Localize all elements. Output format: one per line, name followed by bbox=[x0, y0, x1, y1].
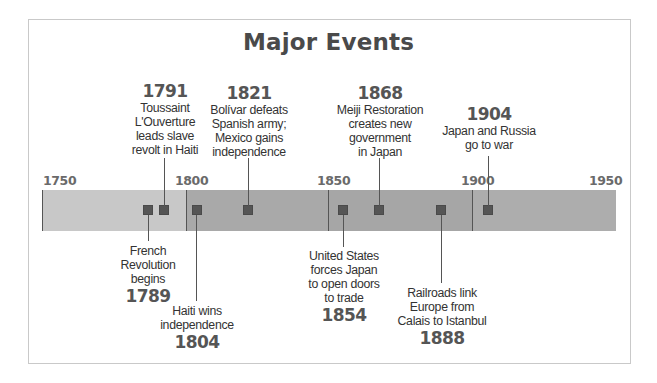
event-year: 1789 bbox=[120, 286, 175, 306]
event-desc-line: Haiti wins bbox=[160, 304, 234, 318]
event-desc-line: go to war bbox=[442, 138, 536, 152]
stem-1789 bbox=[148, 215, 149, 241]
segment-1850-1900 bbox=[328, 190, 472, 231]
event-desc-line: Mexico gains bbox=[210, 131, 288, 145]
event-1791: 1791 Toussaint L'Ouverture leads slave r… bbox=[132, 81, 199, 157]
marker-1821 bbox=[243, 205, 253, 215]
event-1904: 1904 Japan and Russia go to war bbox=[442, 104, 536, 152]
event-desc-line: independence bbox=[210, 145, 288, 159]
marker-1904 bbox=[483, 205, 493, 215]
event-desc-line: to open doors bbox=[308, 277, 379, 291]
event-year: 1904 bbox=[442, 104, 536, 124]
event-desc-line: Meiji Restoration bbox=[337, 103, 423, 117]
event-year: 1804 bbox=[160, 332, 234, 352]
event-desc-line: Bolívar defeats bbox=[210, 103, 288, 117]
stem-1904 bbox=[488, 156, 489, 206]
event-1789: French Revolution begins 1789 bbox=[120, 244, 175, 306]
event-1804: Haiti wins independence 1804 bbox=[160, 304, 234, 352]
event-1821: 1821 Bolívar defeats Spanish army; Mexic… bbox=[210, 83, 288, 159]
event-desc-line: creates new bbox=[337, 117, 423, 131]
event-desc-line: Europe from bbox=[398, 300, 487, 314]
page-title: Major Events bbox=[0, 29, 657, 55]
divider-1750 bbox=[42, 190, 43, 231]
event-year: 1821 bbox=[210, 83, 288, 103]
event-desc-line: French bbox=[120, 244, 175, 258]
event-desc-line: to trade bbox=[308, 291, 379, 305]
event-desc-line: revolt in Haiti bbox=[132, 143, 199, 157]
event-desc-line: Calais to Istanbul bbox=[398, 314, 487, 328]
event-desc-line: in Japan bbox=[337, 145, 423, 159]
stem-1888 bbox=[441, 215, 442, 283]
event-1888: Railroads link Europe from Calais to Ist… bbox=[398, 286, 487, 348]
segment-1800-1850 bbox=[186, 190, 328, 231]
tick-1750: 1750 bbox=[43, 173, 76, 188]
divider-1900 bbox=[472, 190, 473, 231]
event-year: 1868 bbox=[337, 83, 423, 103]
event-year: 1854 bbox=[308, 305, 379, 325]
event-desc-line: Revolution bbox=[120, 258, 175, 272]
marker-1789 bbox=[143, 205, 153, 215]
tick-1850: 1850 bbox=[317, 173, 350, 188]
tick-1800: 1800 bbox=[175, 173, 208, 188]
tick-1900: 1900 bbox=[461, 173, 494, 188]
divider-1850 bbox=[328, 190, 329, 231]
stem-1804 bbox=[196, 215, 197, 301]
divider-1800 bbox=[186, 190, 187, 231]
event-1868: 1868 Meiji Restoration creates new gover… bbox=[337, 83, 423, 159]
marker-1854 bbox=[338, 205, 348, 215]
event-1854: United States forces Japan to open doors… bbox=[308, 249, 379, 325]
event-year: 1791 bbox=[132, 81, 199, 101]
event-desc-line: Spanish army; bbox=[210, 117, 288, 131]
marker-1791 bbox=[159, 205, 169, 215]
event-desc-line: L'Ouverture bbox=[132, 115, 199, 129]
marker-1868 bbox=[374, 205, 384, 215]
event-desc-line: Japan and Russia bbox=[442, 124, 536, 138]
stem-1868 bbox=[379, 158, 380, 206]
event-desc-line: forces Japan bbox=[308, 263, 379, 277]
event-desc-line: government bbox=[337, 131, 423, 145]
event-desc-line: independence bbox=[160, 318, 234, 332]
stem-1854 bbox=[343, 215, 344, 247]
marker-1804 bbox=[192, 205, 202, 215]
event-desc-line: Toussaint bbox=[132, 101, 199, 115]
stem-1821 bbox=[248, 158, 249, 206]
event-desc-line: United States bbox=[308, 249, 379, 263]
event-desc-line: leads slave bbox=[132, 129, 199, 143]
timeline-bar bbox=[42, 190, 616, 231]
segment-1900-1950 bbox=[472, 190, 616, 231]
event-desc-line: Railroads link bbox=[398, 286, 487, 300]
event-desc-line: begins bbox=[120, 272, 175, 286]
marker-1888 bbox=[436, 205, 446, 215]
event-year: 1888 bbox=[398, 328, 487, 348]
stem-1791 bbox=[164, 158, 165, 206]
tick-1950: 1950 bbox=[589, 173, 622, 188]
